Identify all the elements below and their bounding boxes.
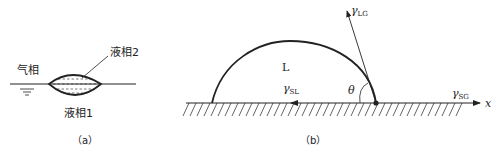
gamma-lg-label: γLG xyxy=(351,4,368,18)
gamma-sl-label: γSL xyxy=(283,82,299,96)
liquid1-label: 液相1 xyxy=(64,106,93,120)
liquid2-label: 液相2 xyxy=(110,45,139,59)
contact-point xyxy=(373,100,378,105)
contact-angle-label: θ xyxy=(348,84,355,97)
liquid-label: L xyxy=(282,61,290,74)
caption-b: （b） xyxy=(300,135,326,146)
lens-liquid2 xyxy=(49,75,101,95)
water-level-icon xyxy=(20,89,34,95)
solid-surface-hatching xyxy=(183,103,462,116)
liquid2-leader-line xyxy=(82,56,108,78)
figure-a: 气相 液相2 液相1 （a） xyxy=(10,45,139,146)
gas-phase-label: 气相 xyxy=(17,63,39,77)
gamma-sg-label: γSG xyxy=(452,87,469,101)
x-axis-label: x xyxy=(485,97,492,110)
contact-angle-arc xyxy=(360,83,368,103)
caption-a: （a） xyxy=(72,135,98,146)
diagram-canvas: 气相 液相2 液相1 （a） xyxy=(0,0,498,157)
figure-b: L γSL γLG γSG θ x （b） xyxy=(183,4,492,146)
